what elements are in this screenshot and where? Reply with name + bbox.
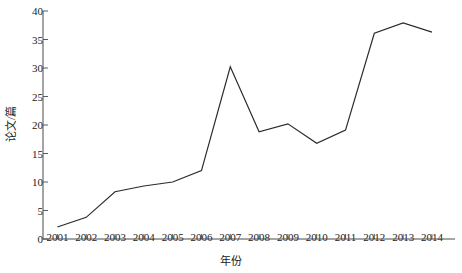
chart-figure: 论文/篇 0510152025303540 200120022003200420… bbox=[0, 0, 462, 273]
data-series-lines bbox=[57, 23, 432, 227]
axis-lines bbox=[43, 11, 455, 239]
axis-tick-marks bbox=[43, 11, 432, 239]
series-line bbox=[57, 23, 432, 227]
plot-area bbox=[0, 0, 462, 273]
